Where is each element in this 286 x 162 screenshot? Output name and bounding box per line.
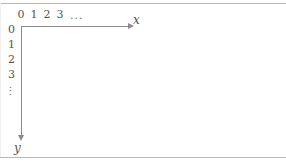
x-axis-ellipsis: ... <box>70 10 84 21</box>
y-tick-label-3: 3 <box>5 69 15 80</box>
left-edge-rule <box>0 3 1 157</box>
x-tick-label-0: 0 <box>16 9 26 20</box>
y-axis-label: y <box>14 142 21 154</box>
x-tick-label-1: 1 <box>29 9 39 20</box>
bottom-rule <box>0 157 286 158</box>
x-axis-line <box>21 26 131 27</box>
top-rule <box>0 3 286 4</box>
x-tick-label-2: 2 <box>42 9 52 20</box>
y-tick-label-0: 0 <box>5 24 15 35</box>
coordinate-axes-figure: 0 1 2 3 ... 0 1 2 3 ⋮ x y <box>0 0 286 162</box>
x-axis-label: x <box>133 14 140 26</box>
y-tick-label-2: 2 <box>5 54 15 65</box>
y-axis-ellipsis: ⋮ <box>5 86 15 97</box>
x-tick-label-3: 3 <box>55 9 65 20</box>
y-tick-label-1: 1 <box>5 39 15 50</box>
y-axis-line <box>21 26 22 138</box>
